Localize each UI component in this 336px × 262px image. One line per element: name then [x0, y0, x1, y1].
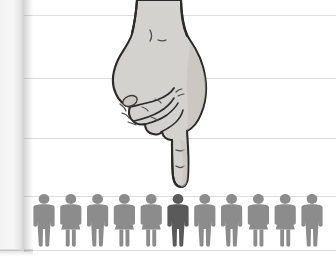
- illustration-canvas: [0, 0, 336, 262]
- pointing-hand: [0, 0, 336, 262]
- knuckle-crease-2: [122, 113, 129, 118]
- hand-group: [113, 0, 206, 187]
- hand-shading: [187, 44, 206, 131]
